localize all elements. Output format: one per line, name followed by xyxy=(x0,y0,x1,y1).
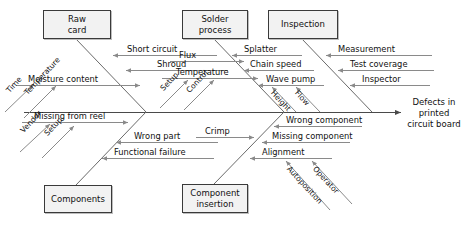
category-label-inspection: Inspection xyxy=(281,19,325,30)
cause-splatter: Splatter xyxy=(244,45,277,53)
cause-inspector: Inspector xyxy=(362,75,401,83)
category-box-component-insertion[interactable]: Component insertion xyxy=(182,184,248,213)
cause-alignment: Alignment xyxy=(262,148,305,156)
fishbone-diagram: Raw card Solder process Inspection Compo… xyxy=(0,0,462,225)
cause-chain-speed: Chain speed xyxy=(250,60,301,68)
cause-wrong-part: Wrong part xyxy=(134,132,180,140)
category-label-solder-process: Solder process xyxy=(199,14,232,35)
cause-functional-failure: Functional failure xyxy=(114,148,186,156)
effect-label: Defects in printed circuit board xyxy=(406,97,462,130)
cause-flux: Flux xyxy=(179,51,196,59)
category-box-inspection[interactable]: Inspection xyxy=(268,10,338,39)
category-label-components: Components xyxy=(51,194,105,205)
cause-test-coverage: Test coverage xyxy=(350,60,408,68)
category-label-component-insertion: Component insertion xyxy=(190,188,239,209)
category-box-components[interactable]: Components xyxy=(44,185,112,213)
cause-measurement: Measurement xyxy=(338,45,395,53)
cause-short-circuit: Short circuit xyxy=(127,45,177,53)
cause-wave-pump: Wave pump xyxy=(266,75,315,83)
cause-missing-component: Missing component xyxy=(272,132,353,140)
cause-crimp: Crimp xyxy=(205,127,230,135)
category-box-raw-card[interactable]: Raw card xyxy=(43,10,111,39)
cause-missing-from-reel: Missing from reel xyxy=(34,112,105,120)
category-box-solder-process[interactable]: Solder process xyxy=(182,10,248,39)
category-label-raw-card: Raw card xyxy=(68,14,87,35)
cause-wrong-component: Wrong component xyxy=(286,116,362,124)
